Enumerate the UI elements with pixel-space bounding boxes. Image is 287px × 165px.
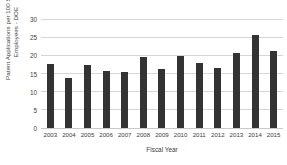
bar (158, 69, 165, 128)
y-axis-title-line-2: Employees - DOE (12, 7, 20, 57)
x-axis-tick-label: 2004 (60, 131, 79, 139)
bar (270, 51, 277, 128)
bar-slot (264, 19, 283, 128)
bar-slot (115, 19, 134, 128)
bar-slot (208, 19, 227, 128)
y-axis-tick-label: 30 (30, 16, 37, 23)
x-axis-tick-label: 2007 (115, 131, 134, 139)
x-axis-tick-labels: 2003200420052006200720082009201020112012… (41, 131, 283, 139)
y-axis-tick-label: 20 (30, 52, 37, 59)
bar-slot (190, 19, 209, 128)
bar (121, 72, 128, 128)
y-axis-tick-label: 5 (33, 106, 37, 113)
y-axis-tick-label: 15 (30, 70, 37, 77)
y-axis-tick-label: 10 (30, 88, 37, 95)
bar (103, 71, 110, 128)
x-axis-tick-label: 2005 (78, 131, 97, 139)
x-axis-tick-label: 2006 (97, 131, 116, 139)
bar-slot (78, 19, 97, 128)
bar-slot (97, 19, 116, 128)
x-axis-tick-label: 2013 (227, 131, 246, 139)
x-axis-tick-label: 2014 (246, 131, 265, 139)
x-axis-tick-label: 2009 (153, 131, 172, 139)
y-axis-tick-labels: 051015202530 (22, 19, 37, 128)
x-axis-tick-label: 2008 (134, 131, 153, 139)
x-axis-tick-label: 2011 (190, 131, 209, 139)
bar (47, 64, 54, 128)
bar-slot (227, 19, 246, 128)
bar-slot (153, 19, 172, 128)
bar-chart: Patent Applications per 100 STEM Employe… (0, 0, 287, 165)
bar (84, 65, 91, 128)
bar-slot (246, 19, 265, 128)
bar (233, 53, 240, 128)
x-axis-tick-label: 2012 (208, 131, 227, 139)
y-axis-tick-label: 0 (33, 125, 37, 132)
bar (214, 68, 221, 128)
x-axis-tick-label: 2010 (171, 131, 190, 139)
bar-slot (134, 19, 153, 128)
x-axis-title: Fiscal Year (41, 146, 283, 154)
bar (177, 56, 184, 128)
y-axis-tick-label: 25 (30, 34, 37, 41)
bar-series (41, 19, 283, 128)
y-axis-title-line-1: Patent Applications per 100 STEM (4, 0, 12, 80)
x-axis-tick-label: 2003 (41, 131, 60, 139)
bar-slot (60, 19, 79, 128)
x-axis-tick-label: 2015 (264, 131, 283, 139)
bar (140, 57, 147, 128)
bar-slot (171, 19, 190, 128)
bar (196, 63, 203, 128)
bar (65, 78, 72, 129)
bar (252, 35, 259, 128)
bar-slot (41, 19, 60, 128)
plot-area (41, 19, 283, 128)
